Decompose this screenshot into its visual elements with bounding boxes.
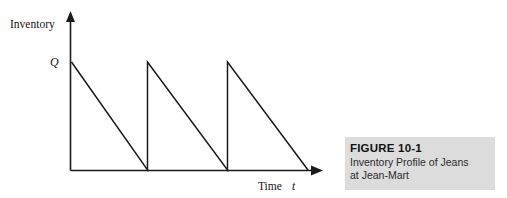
x-axis-label: Time <box>258 180 282 192</box>
x-axis-label-variable: t <box>292 180 296 192</box>
sawtooth-inventory-line <box>72 62 309 170</box>
figure-inventory-profile: Inventory Q Time t FIGURE 10-1 Inventory… <box>0 0 507 198</box>
y-axis-label: Inventory <box>10 18 55 31</box>
inventory-series <box>72 62 309 170</box>
y-axis-arrow-icon <box>66 11 75 22</box>
chart-axes <box>66 11 323 176</box>
x-axis-arrow-icon <box>311 166 323 176</box>
figure-caption-line-1: Inventory Profile of Jeans <box>350 156 495 169</box>
figure-caption-box: FIGURE 10-1 Inventory Profile of Jeans a… <box>345 137 495 190</box>
y-axis-tick-label-Q: Q <box>50 55 59 69</box>
figure-caption-title: FIGURE 10-1 <box>350 142 495 155</box>
figure-caption-line-2: at Jean-Mart <box>350 169 495 182</box>
